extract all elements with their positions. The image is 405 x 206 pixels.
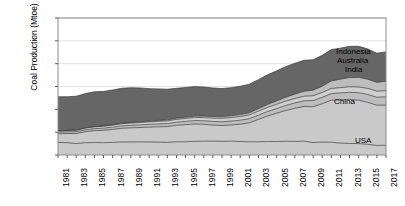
x-tick-label: 1981	[62, 168, 71, 187]
x-tick-label: 2007	[299, 168, 308, 187]
x-tick-label: 1987	[117, 168, 126, 187]
series-label-indonesia: Indonesia	[336, 47, 371, 56]
coal-production-stacked-area-chart: 0100020003000400050006000 Coal Productio…	[0, 0, 405, 206]
x-tick-label: 2005	[281, 168, 290, 187]
x-tick-label: 1995	[190, 168, 199, 187]
x-tick-label: 1991	[153, 168, 162, 187]
x-tick-label: 2015	[372, 168, 381, 187]
series-label-other: Other	[340, 22, 360, 31]
x-tick-label: 2013	[354, 168, 363, 187]
x-tick-label: 1985	[98, 168, 107, 187]
x-tick-label: 2011	[335, 169, 344, 187]
x-tick-label: 2009	[317, 168, 326, 187]
series-label-usa: USA	[355, 136, 371, 145]
x-tick-label: 2003	[262, 168, 271, 187]
x-tick-label: 1989	[135, 168, 144, 187]
x-tick-label: 1999	[226, 168, 235, 187]
x-tick-label: 1983	[80, 168, 89, 187]
x-tick-label: 1993	[171, 168, 180, 187]
series-label-australia: Australia	[337, 56, 368, 65]
series-label-china: China	[334, 97, 355, 106]
series-label-india: India	[345, 65, 362, 74]
x-tick-label: 2017	[390, 168, 399, 187]
x-tick-label: 1997	[208, 168, 217, 187]
x-tick-label: 2001	[244, 168, 253, 187]
